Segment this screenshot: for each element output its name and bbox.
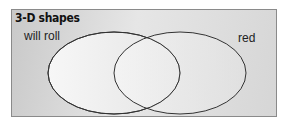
diagram-title: 3-D shapes [15,11,80,25]
set-label-red: red [238,31,255,45]
set-label-will-roll: will roll [24,29,60,43]
